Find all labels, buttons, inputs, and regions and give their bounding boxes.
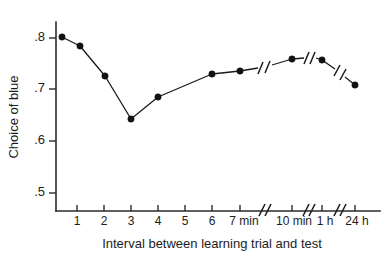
data-point-8 <box>319 57 325 63</box>
data-point-6 <box>237 68 243 74</box>
data-point-2 <box>102 73 108 79</box>
x-tick-label-3: 4 <box>155 214 162 228</box>
data-point-0 <box>59 34 65 40</box>
x-tick-label-8: 1 h <box>317 214 334 228</box>
y-tick-marks <box>49 38 56 193</box>
data-point-1 <box>77 43 83 49</box>
data-point-4 <box>155 94 161 100</box>
data-point-5 <box>209 71 215 77</box>
data-point-7 <box>289 56 295 62</box>
line-break-2a <box>304 52 309 64</box>
chart-canvas: .8 .7 .6 .5 Choice of blue <box>0 0 388 269</box>
y-tick-label-3: .5 <box>34 184 45 199</box>
line-break-2b <box>310 52 315 64</box>
line-break-3a <box>334 65 340 76</box>
axis-break-1b <box>265 204 271 216</box>
x-tick-label-7: 10 min <box>276 214 312 228</box>
series-break-marks <box>258 52 346 80</box>
line-break-1b <box>265 61 270 73</box>
data-point-9 <box>352 82 358 88</box>
line-break-1a <box>258 62 263 74</box>
data-point-markers <box>59 34 358 122</box>
data-point-3 <box>128 116 134 122</box>
line-chart: .8 .7 .6 .5 Choice of blue <box>0 0 388 269</box>
y-tick-label-2: .6 <box>34 132 45 147</box>
series-segment-1 <box>62 37 240 119</box>
x-tick-label-9: 24 h <box>345 214 368 228</box>
x-tick-label-6: 7 min <box>229 214 258 228</box>
x-tick-label-5: 6 <box>209 214 216 228</box>
x-tick-label-4: 5 <box>182 214 189 228</box>
y-tick-label-0: .8 <box>34 29 45 44</box>
y-tick-label-1: .7 <box>34 80 45 95</box>
x-tick-label-0: 1 <box>74 214 81 228</box>
y-axis-title: Choice of blue <box>6 75 21 158</box>
x-tick-label-2: 3 <box>128 214 135 228</box>
x-axis-title: Interval between learning trial and test <box>102 236 322 251</box>
x-tick-label-1: 2 <box>101 214 108 228</box>
axis-break-3a <box>334 204 340 216</box>
axis-break-1a <box>259 204 265 216</box>
line-break-3b <box>340 69 346 80</box>
